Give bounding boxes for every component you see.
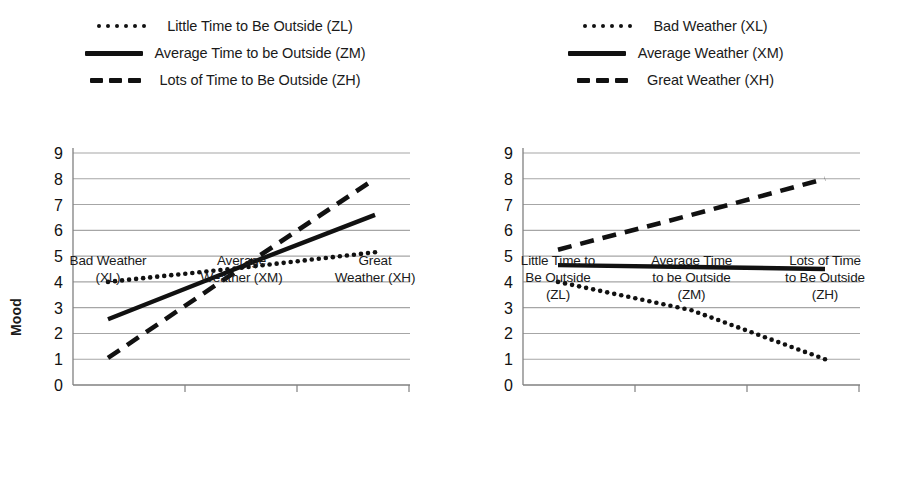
x-axis-category-label: GreatWeather (XH) xyxy=(315,252,435,286)
legend-label: Average Time to be Outside (ZM) xyxy=(155,45,366,61)
x-axis-category-line: Average Time xyxy=(632,252,752,269)
x-axis-category-line: (XL) xyxy=(48,269,168,286)
legend-left: Little Time to Be Outside (ZL) Average T… xyxy=(0,18,450,88)
legend-item: Lots of Time to Be Outside (ZH) xyxy=(90,72,361,88)
legend-label: Bad Weather (XL) xyxy=(653,18,767,34)
x-axis-category-label: Lots of Timeto Be Outside(ZH) xyxy=(765,252,885,303)
legend-swatch-solid-icon xyxy=(85,46,143,60)
data-point-dot xyxy=(176,272,181,277)
data-point-dot xyxy=(675,305,680,310)
data-point-dot xyxy=(626,295,631,300)
legend-swatch-solid-icon xyxy=(568,46,626,60)
y-tick-label: 9 xyxy=(504,145,513,162)
data-point-dot xyxy=(709,315,714,320)
y-tick-label: 1 xyxy=(504,351,513,368)
legend-swatch-dashed-icon xyxy=(90,73,148,87)
legend-right: Bad Weather (XL) Average Weather (XM) Gr… xyxy=(450,18,901,88)
y-tick-label: 1 xyxy=(54,351,63,368)
y-tick-label: 0 xyxy=(54,377,63,394)
data-point-dot xyxy=(803,350,808,355)
data-point-dot xyxy=(743,328,748,333)
data-point-dot xyxy=(796,347,801,352)
y-tick-label: 6 xyxy=(54,222,63,239)
legend-item: Little Time to Be Outside (ZL) xyxy=(97,18,353,34)
chart-panel-right: Bad Weather (XL) Average Weather (XM) Gr… xyxy=(450,0,901,493)
y-tick-label: 0 xyxy=(504,377,513,394)
y-tick-label: 7 xyxy=(54,197,63,214)
x-axis-category-line: (ZL) xyxy=(498,286,618,303)
x-axis-category-line: to be Outside xyxy=(632,269,752,286)
x-axis-category-line: Great xyxy=(315,252,435,269)
data-point-dot xyxy=(729,323,734,328)
legend-swatch-dotted-icon xyxy=(583,19,641,33)
chart-panel-left: Little Time to Be Outside (ZL) Average T… xyxy=(0,0,450,493)
data-point-dot xyxy=(668,303,673,308)
y-tick-label: 2 xyxy=(54,325,63,342)
y-tick-label: 6 xyxy=(504,222,513,239)
data-point-dot xyxy=(783,342,788,347)
legend-label: Little Time to Be Outside (ZL) xyxy=(167,18,353,34)
legend-swatch-dotted-icon xyxy=(97,19,155,33)
data-point-dot xyxy=(723,320,728,325)
x-axis-category-line: to Be Outside xyxy=(765,269,885,286)
data-point-dot xyxy=(789,345,794,350)
data-point-dot xyxy=(302,258,307,263)
x-axis-category-label: Little Time toBe Outside(ZL) xyxy=(498,252,618,303)
y-tick-label: 7 xyxy=(504,197,513,214)
x-axis-category-line: Average xyxy=(182,252,302,269)
x-axis-category-line: Bad Weather xyxy=(48,252,168,269)
y-tick-label: 2 xyxy=(504,325,513,342)
data-point-dot xyxy=(682,306,687,311)
data-point-dot xyxy=(169,273,174,278)
x-axis-category-line: Weather (XH) xyxy=(315,269,435,286)
legend-item: Average Time to be Outside (ZM) xyxy=(85,45,366,61)
legend-label: Average Weather (XM) xyxy=(638,45,784,61)
y-tick-label: 8 xyxy=(504,171,513,188)
plot-area-right: Mood 0123456789 xyxy=(450,140,901,480)
data-point-dot xyxy=(769,337,774,342)
legend-label: Lots of Time to Be Outside (ZH) xyxy=(160,72,361,88)
x-axis-category-line: (ZM) xyxy=(632,286,752,303)
data-point-dot xyxy=(689,308,694,313)
figure-root: Little Time to Be Outside (ZL) Average T… xyxy=(0,0,901,493)
legend-item: Bad Weather (XL) xyxy=(583,18,767,34)
x-axis-category-line: Little Time to xyxy=(498,252,618,269)
legend-item: Average Weather (XM) xyxy=(568,45,784,61)
plot-area-left: Mood 0123456789 xyxy=(0,140,450,480)
y-tick-label: 3 xyxy=(54,300,63,317)
y-tick-label: 9 xyxy=(54,145,63,162)
x-axis-category-line: Weather (XM) xyxy=(182,269,302,286)
x-axis-category-line: (ZH) xyxy=(765,286,885,303)
data-point-dot xyxy=(823,357,828,362)
x-axis-category-label: AverageWeather (XM) xyxy=(182,252,302,286)
legend-swatch-dashed-icon xyxy=(577,73,635,87)
data-point-dot xyxy=(763,335,768,340)
data-point-dot xyxy=(716,318,721,323)
legend-item: Great Weather (XH) xyxy=(577,72,774,88)
x-axis-category-line: Be Outside xyxy=(498,269,618,286)
data-point-dot xyxy=(809,352,814,357)
data-point-dot xyxy=(749,330,754,335)
x-axis-category-label: Average Timeto be Outside(ZM) xyxy=(632,252,752,303)
data-point-dot xyxy=(816,354,821,359)
data-point-dot xyxy=(619,293,624,298)
data-point-dot xyxy=(756,332,761,337)
data-point-dot xyxy=(776,340,781,345)
x-axis-category-line: Lots of Time xyxy=(765,252,885,269)
data-point-dot xyxy=(309,257,314,262)
data-point-dot xyxy=(736,325,741,330)
data-point-dot xyxy=(696,310,701,315)
x-axis-category-label: Bad Weather(XL) xyxy=(48,252,168,286)
data-line-dashed xyxy=(558,179,825,250)
legend-label: Great Weather (XH) xyxy=(647,72,774,88)
data-point-dot xyxy=(703,313,708,318)
y-tick-label: 8 xyxy=(54,171,63,188)
